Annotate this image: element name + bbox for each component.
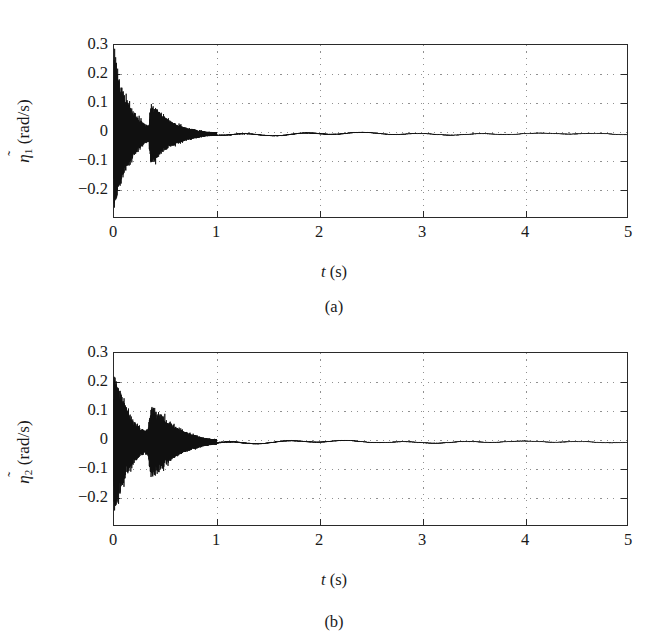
y-tick-label: 0.1 [87,402,108,419]
y-tick-label: 0.3 [87,36,108,53]
y-axis-variable-a: ̃η1 [14,149,33,163]
x-axis-tick-labels-b: 0 1 2 3 4 5 [113,532,628,556]
y-axis-unit-a: (rad/s) [14,99,33,144]
x-tick-label: 3 [418,532,426,549]
x-tick-label: 5 [624,224,632,241]
x-axis-variable-a: t [321,262,326,281]
y-axis-variable-b: ̃η2 [14,470,33,484]
x-axis-tick-labels-a: 0 1 2 3 4 5 [113,224,628,248]
x-axis-label-b: t (s) [0,570,668,590]
y-tick-label: 0.2 [87,373,108,390]
plot-area-a [113,44,628,218]
y-tick-label: 0.3 [87,344,108,361]
x-axis-unit-b: (s) [330,570,347,589]
x-tick-label: 0 [109,224,117,241]
plot-panel-b: ̃η2 (rad/s) 0.3 0.2 0.1 0 −0.1 −0.2 [0,321,668,642]
x-axis-unit-a: (s) [330,262,347,281]
x-tick-label: 4 [521,532,529,549]
plot-area-b [113,352,628,526]
y-axis-label-b: ̃η2 (rad/s) [14,365,36,539]
x-tick-label: 4 [521,224,529,241]
y-tick-label: −0.1 [78,460,108,477]
y-tick-label: 0 [100,123,108,140]
x-tick-label: 2 [315,224,323,241]
y-tick-label: −0.2 [78,489,108,506]
x-tick-label: 5 [624,532,632,549]
x-axis-variable-b: t [321,570,326,589]
y-tick-label: −0.1 [78,152,108,169]
x-tick-label: 3 [418,224,426,241]
y-tick-label: 0.2 [87,65,108,82]
x-tick-label: 1 [212,532,220,549]
panel-caption-a: (a) [0,297,668,317]
y-tick-label: −0.2 [78,181,108,198]
x-axis-label-a: t (s) [0,262,668,282]
y-tick-label: 0 [100,431,108,448]
x-tick-label: 1 [212,224,220,241]
y-axis-label-a: ̃η1 (rad/s) [14,44,36,218]
signal-trace-b [114,353,627,525]
signal-trace-a [114,45,627,217]
figure-estimation-errors: ̃η1 (rad/s) 0.3 0.2 0.1 0 −0.1 −0.2 [0,0,668,642]
x-tick-label: 2 [315,532,323,549]
panel-caption-b: (b) [0,612,668,632]
y-axis-unit-b: (rad/s) [14,420,33,465]
x-tick-label: 0 [109,532,117,549]
plot-panel-a: ̃η1 (rad/s) 0.3 0.2 0.1 0 −0.1 −0.2 [0,0,668,321]
y-tick-label: 0.1 [87,94,108,111]
